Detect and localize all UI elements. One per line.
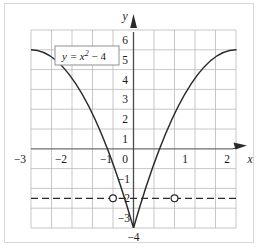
y-axis-arrowhead — [130, 14, 137, 28]
equation-callout: y = x2 − 4 — [55, 46, 119, 65]
y-tick-neg4: −4 — [127, 231, 139, 243]
x-tick-neg3: −3 — [14, 153, 26, 165]
y-axis-label: y — [121, 10, 128, 23]
x-tick-neg2: −2 — [55, 153, 67, 165]
y-tick-3: 3 — [122, 93, 128, 105]
y-tick-0: 0 — [122, 153, 128, 165]
y-tick-4: 4 — [122, 74, 128, 86]
equation-tail: − 4 — [89, 50, 107, 62]
y-tick-2: 2 — [122, 113, 128, 125]
intersection-right-open-circle — [171, 195, 178, 202]
y-tick-neg2: −2 — [118, 192, 130, 204]
equation-lhs: y = x — [61, 50, 85, 62]
y-tick-6: 6 — [122, 34, 128, 46]
x-axis-arrowhead — [234, 143, 248, 150]
equation-text: y = x2 − 4 — [61, 49, 106, 63]
x-tick-1: 1 — [182, 153, 188, 165]
x-axis-label: x — [246, 153, 253, 165]
x-tick-neg1: −1 — [100, 153, 112, 165]
y-tick-1: 1 — [122, 133, 128, 145]
graph-canvas: 6 5 4 3 2 1 0 −1 −2 −3 −4 −3 −2 −1 1 2 y… — [0, 0, 260, 248]
parabola-figure: 6 5 4 3 2 1 0 −1 −2 −3 −4 −3 −2 −1 1 2 y… — [0, 0, 260, 248]
y-tick-neg1: −1 — [118, 173, 130, 185]
y-tick-5: 5 — [122, 54, 128, 66]
intersection-left-open-circle — [110, 195, 117, 202]
x-tick-2: 2 — [224, 153, 230, 165]
y-tick-neg3: −3 — [118, 212, 130, 224]
